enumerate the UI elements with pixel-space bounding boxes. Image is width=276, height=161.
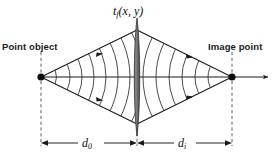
- ray-direction-arrow-upper-right: [186, 54, 193, 59]
- image-distance-label: di: [178, 136, 186, 151]
- image-point-label: Image point: [208, 41, 262, 52]
- point-object-marker: [37, 73, 44, 80]
- image-point-marker: [228, 73, 235, 80]
- dimension-arrow-left-outer: [41, 140, 48, 145]
- lens-transmittance-label: tf(x, y): [113, 4, 143, 19]
- converging-wavefront-arcs: [143, 0, 232, 161]
- lens-imaging-diagram: Point object Image point tf(x, y) d0 di: [0, 0, 276, 161]
- ray-direction-arrow-lower-right: [186, 95, 193, 100]
- dimension-arrow-right-outer: [225, 140, 232, 145]
- transmittance-args: (x, y): [119, 4, 144, 18]
- object-distance-subscript: 0: [88, 142, 92, 151]
- dimension-arrow-right-inner: [137, 140, 144, 145]
- lens-element: [134, 18, 139, 136]
- object-distance-label: d0: [82, 136, 92, 151]
- dimension-arrow-left-inner: [130, 140, 137, 145]
- point-object-label: Point object: [2, 41, 58, 52]
- diagram-canvas: [0, 0, 276, 161]
- image-distance-subscript: i: [184, 142, 186, 151]
